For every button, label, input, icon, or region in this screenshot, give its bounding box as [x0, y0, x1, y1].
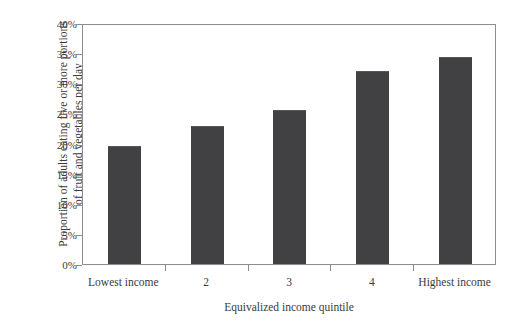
y-tick-label: 0%: [43, 260, 77, 271]
y-tick-label: 30%: [43, 79, 77, 90]
x-tick-mark: [413, 265, 414, 271]
y-tick-label: 10%: [43, 199, 77, 210]
bar-slot: [414, 25, 497, 264]
bar[interactable]: [273, 110, 306, 264]
y-tick-label: 20%: [43, 139, 77, 150]
bar-slot: [331, 25, 414, 264]
bar-slot: [166, 25, 249, 264]
x-axis-title: Equivalized income quintile: [82, 300, 496, 314]
bar-slot: [83, 25, 166, 264]
bar[interactable]: [439, 57, 472, 264]
x-tick-mark: [330, 265, 331, 271]
y-tick-label: 5%: [43, 229, 77, 240]
bar-chart-figure: Proportion of adults eating five or more…: [0, 0, 516, 326]
y-tick-label: 35%: [43, 49, 77, 60]
y-tick-mark: [76, 265, 82, 266]
bar[interactable]: [191, 126, 224, 264]
bar-slot: [249, 25, 332, 264]
y-tick-label: 40%: [43, 19, 77, 30]
x-tick-mark: [165, 265, 166, 271]
y-tick-label: 25%: [43, 109, 77, 120]
plot-area: [82, 24, 496, 265]
bar[interactable]: [108, 146, 141, 264]
y-tick-label: 15%: [43, 169, 77, 180]
bar[interactable]: [356, 71, 389, 264]
x-tick-label: Highest income: [400, 275, 510, 289]
x-tick-mark: [248, 265, 249, 271]
bars-layer: [83, 25, 495, 264]
